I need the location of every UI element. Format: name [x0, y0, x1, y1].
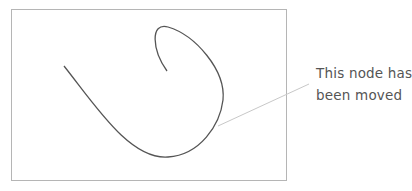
diagram-frame [12, 10, 287, 181]
callout-text-line-2: been moved [316, 85, 402, 106]
callout-text-line-1: This node has [316, 63, 412, 84]
callout-line [218, 84, 309, 126]
bezier-curve[interactable] [64, 26, 223, 157]
